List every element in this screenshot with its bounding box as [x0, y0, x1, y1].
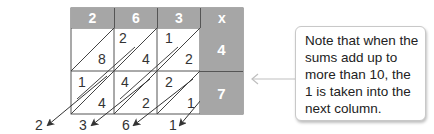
- cell-r2c3-tens: 2: [165, 75, 173, 89]
- cell-r2c1-units: 4: [98, 96, 106, 110]
- cell-r2c2-tens: 4: [121, 75, 129, 89]
- multiplier-1: 4: [200, 28, 243, 71]
- result-digit-4: 1: [169, 118, 177, 132]
- cell-r1c2-units: 4: [142, 52, 150, 66]
- header-digit-2: 6: [114, 8, 157, 28]
- cell-r1c1-units: 8: [98, 52, 106, 66]
- multiply-symbol: x: [200, 8, 243, 28]
- cell-r1c3-units: 2: [185, 52, 193, 66]
- cell-r2c1-tens: 1: [78, 75, 86, 89]
- result-digit-1: 2: [35, 118, 43, 132]
- multiplier-2: 7: [200, 71, 243, 114]
- result-digit-3: 6: [122, 118, 130, 132]
- cell-r2c3-units: 1: [187, 96, 195, 110]
- cell-r2c2-units: 2: [142, 96, 150, 110]
- result-digit-2: 3: [79, 118, 87, 132]
- cell-r1c3-tens: 1: [165, 31, 173, 45]
- lattice-diagram: 2 6 3 x 4 7 8 2 4 1 2 1 4 4 2 2 1 2 3 6 …: [0, 0, 434, 134]
- header-digit-1: 2: [71, 8, 114, 28]
- note-callout: Note that when the sums add up to more t…: [295, 26, 426, 121]
- cell-r1c2-tens: 2: [119, 31, 127, 45]
- header-digit-3: 3: [157, 8, 200, 28]
